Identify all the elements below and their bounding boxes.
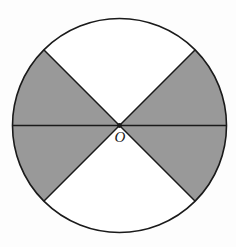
figure-container: O <box>0 0 236 247</box>
center-point-label: O <box>115 129 126 145</box>
circle-sectors-diagram: O <box>0 0 236 247</box>
center-point-dot <box>117 123 122 128</box>
